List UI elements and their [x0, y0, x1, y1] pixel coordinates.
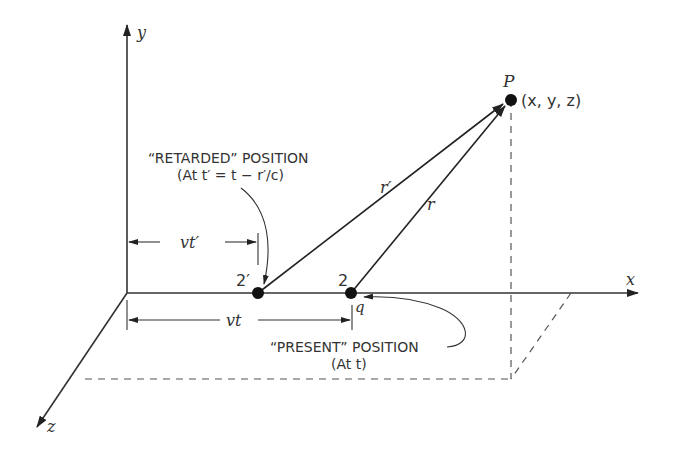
- present-point-label: 2: [338, 271, 348, 290]
- r-prime-label: r′: [380, 178, 392, 197]
- retarded-position-subtitle: (At t′ = t − r′/c): [177, 167, 284, 183]
- vt-label: vt: [226, 311, 242, 330]
- point-P-label: P: [502, 71, 515, 91]
- charge-q-label: q: [355, 298, 365, 316]
- retarded-point-2-prime: [252, 287, 264, 299]
- retarded-position-diagram: y x z r′ r P (x, y, z) 2′ 2 q vt′ vt “RE…: [0, 0, 673, 453]
- point-P-coords: (x, y, z): [521, 91, 581, 110]
- present-position-title: “PRESENT” POSITION: [270, 339, 419, 355]
- point-P: [505, 94, 517, 106]
- retarded-callout-arrow: [241, 188, 268, 284]
- present-position-subtitle: (At t): [331, 356, 367, 372]
- z-axis: [37, 293, 127, 427]
- y-axis-label: y: [136, 23, 147, 42]
- r-label: r: [427, 195, 436, 214]
- vector-r-prime: [258, 104, 503, 293]
- projection-diagonal: [511, 293, 571, 379]
- retarded-position-title: “RETARDED” POSITION: [148, 150, 309, 166]
- retarded-point-label: 2′: [236, 271, 250, 290]
- vt-prime-label: vt′: [180, 233, 199, 252]
- x-axis-label: x: [626, 270, 635, 289]
- z-axis-label: z: [46, 417, 56, 436]
